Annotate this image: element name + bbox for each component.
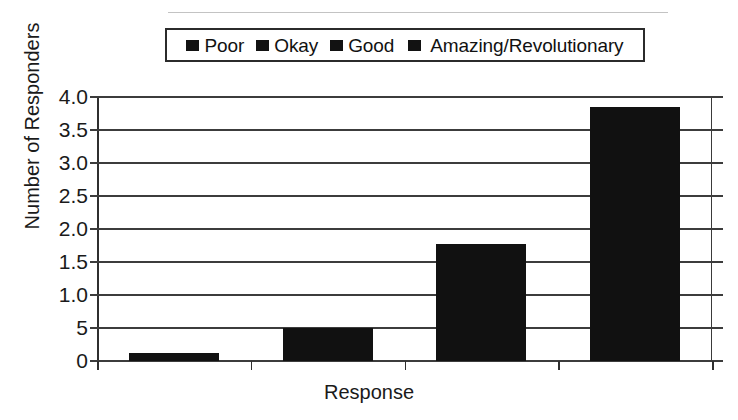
x-axis-tick (97, 361, 99, 370)
chart-legend: Poor Okay Good Amazing/Revolutionary (165, 28, 645, 62)
y-axis-tick (90, 360, 97, 362)
y-axis-tick-label: 1.0 (59, 284, 88, 305)
legend-swatch-icon (256, 40, 269, 51)
bar-good (436, 244, 526, 361)
legend-item-amazing-revolutionary: Amazing/Revolutionary (400, 36, 629, 55)
legend-label: Poor (204, 36, 244, 55)
y-axis-right-tick (712, 360, 723, 362)
y-axis-right-tick (712, 129, 723, 131)
scan-artifact-line (168, 12, 668, 13)
y-axis-tick-label: 1.5 (59, 251, 88, 272)
legend-label: Good (348, 36, 394, 55)
y-axis-tick-label: 3.0 (59, 152, 88, 173)
y-axis-tick (90, 327, 97, 329)
legend-swatch-icon (408, 40, 421, 51)
y-axis-tick-label: 5 (76, 317, 88, 338)
y-axis-right-tick (712, 96, 723, 98)
y-axis-tick (90, 294, 97, 296)
y-axis-tick-label: 3.5 (59, 119, 88, 140)
y-axis-tick (90, 261, 97, 263)
plot-area: 4.03.53.02.52.01.51.050 (97, 97, 712, 361)
legend-item-okay: Okay (250, 36, 324, 55)
y-axis-right-tick (712, 294, 723, 296)
y-axis-title: Number of Responders (21, 11, 43, 241)
bar-okay (283, 328, 373, 361)
legend-item-poor: Poor (180, 36, 250, 55)
legend-label: Okay (274, 36, 318, 55)
y-axis-tick-label: 2.5 (59, 185, 88, 206)
y-axis-tick (90, 129, 97, 131)
x-axis-tick (558, 361, 560, 370)
y-axis-right-tick (712, 195, 723, 197)
legend-label: Amazing/Revolutionary (430, 36, 623, 55)
y-axis-right-tick (712, 261, 723, 263)
x-axis-tick (712, 361, 714, 370)
x-axis-tick (405, 361, 407, 370)
x-axis-tick (251, 361, 253, 370)
legend-swatch-icon (330, 40, 343, 51)
y-axis-tick (90, 228, 97, 230)
y-axis-tick-label: 0 (76, 350, 88, 371)
legend-swatch-icon (186, 40, 199, 51)
y-axis-right-tick (712, 228, 723, 230)
y-axis-tick (90, 195, 97, 197)
bar-chart-figure: Poor Okay Good Amazing/Revolutionary Num… (0, 0, 738, 420)
gridline (97, 96, 712, 98)
x-axis-title: Response (0, 381, 738, 403)
y-axis-tick (90, 162, 97, 164)
y-axis-tick-label: 4.0 (59, 86, 88, 107)
legend-item-good: Good (324, 36, 400, 55)
y-axis-right-tick (712, 327, 723, 329)
bar-amazing-revolutionary (590, 107, 680, 361)
y-axis-tick (90, 96, 97, 98)
y-axis-tick-label: 2.0 (59, 218, 88, 239)
y-axis-right-tick (712, 162, 723, 164)
bar-poor (129, 353, 219, 361)
